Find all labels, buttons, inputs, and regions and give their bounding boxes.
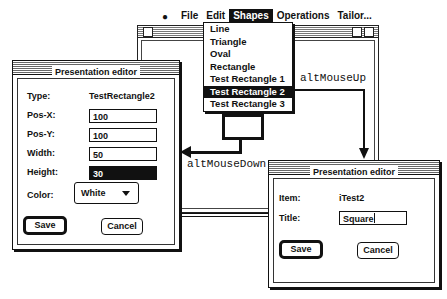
color-label: Color:: [27, 190, 54, 200]
item-label: Item:: [279, 193, 301, 203]
type-label: Type:: [27, 91, 50, 101]
menu-item-rectangle[interactable]: Rectangle: [204, 61, 292, 74]
menu-item-oval[interactable]: Oval: [204, 48, 292, 61]
title-field-value: Square: [343, 214, 374, 224]
connector-line: [190, 151, 242, 154]
type-value: TestRectangle2: [89, 91, 155, 101]
save-button[interactable]: Save: [23, 216, 67, 235]
pos-x-label: Pos-X:: [27, 110, 56, 120]
menu-item-test-rectangle-1[interactable]: Test Rectangle 1: [204, 73, 292, 86]
connector-line: [363, 89, 365, 153]
presentation-editor-item: Presentation editor Item: iTest2 Title: …: [268, 160, 440, 288]
shapes-dropdown-menu: Line Triangle Oval Rectangle Test Rectan…: [203, 22, 293, 112]
connector-line: [180, 216, 268, 217]
cancel-button[interactable]: Cancel: [101, 218, 143, 235]
width-label: Width:: [27, 148, 55, 158]
chevron-down-icon: [122, 191, 130, 196]
connector-line: [292, 89, 364, 91]
menu-file[interactable]: File: [177, 9, 202, 23]
menu-shapes[interactable]: Shapes: [229, 9, 273, 23]
width-field[interactable]: 50: [89, 147, 157, 161]
close-box-icon[interactable]: [143, 27, 153, 37]
color-select-value: White: [81, 188, 106, 198]
canvas-rectangle-shape[interactable]: [222, 114, 264, 140]
pos-x-field[interactable]: 100: [89, 109, 157, 123]
save-button[interactable]: Save: [279, 240, 323, 259]
presentation-editor-shape: Presentation editor Type: TestRectangle2…: [12, 60, 180, 250]
zoom-box-icon[interactable]: [352, 27, 362, 37]
connector-line: [180, 213, 268, 214]
menu-edit[interactable]: Edit: [202, 9, 229, 23]
menu-item-triangle[interactable]: Triangle: [204, 36, 292, 49]
menu-operations[interactable]: Operations: [273, 9, 334, 23]
cancel-button[interactable]: Cancel: [357, 242, 399, 259]
collapse-box-icon[interactable]: [364, 27, 374, 37]
menu-item-test-rectangle-3[interactable]: Test Rectangle 3: [204, 98, 292, 111]
menu-item-line[interactable]: Line: [204, 23, 292, 36]
alt-mouse-down-label: altMouseDown: [187, 158, 266, 170]
apple-menu-icon[interactable]: ●: [162, 11, 174, 22]
title-label: Title:: [279, 213, 300, 223]
menu-bar: ● File Edit Shapes Operations Tailor...: [162, 9, 376, 23]
item-value: iTest2: [339, 193, 364, 203]
pos-y-field[interactable]: 100: [89, 128, 157, 142]
title-field[interactable]: Square: [339, 211, 407, 225]
height-field[interactable]: 30: [89, 166, 157, 180]
menu-item-test-rectangle-2[interactable]: Test Rectangle 2: [204, 86, 292, 99]
color-select[interactable]: White: [74, 182, 139, 204]
pos-y-label: Pos-Y:: [27, 129, 55, 139]
alt-mouse-up-label: altMouseUp: [300, 72, 366, 84]
text-cursor: [374, 213, 375, 223]
menu-tailor[interactable]: Tailor...: [334, 9, 376, 23]
arrow-down-icon: [359, 148, 369, 159]
arrow-left-icon: [180, 146, 191, 158]
height-label: Height:: [27, 167, 58, 177]
dialog-title-bar[interactable]: Presentation editor: [269, 161, 439, 175]
dialog-title-bar[interactable]: Presentation editor: [13, 61, 179, 75]
